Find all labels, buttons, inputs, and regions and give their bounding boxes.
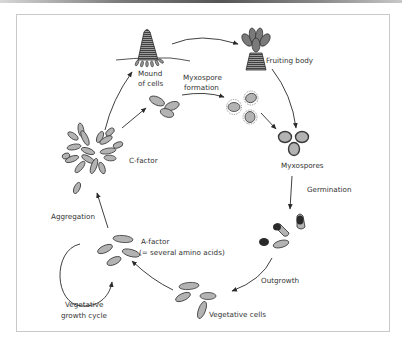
arrow-aggregate-to-mound	[105, 72, 132, 130]
label-vegetative-cycle-1: Vegetative	[65, 300, 104, 309]
arrow-fruiting-to-myxospores	[272, 69, 296, 128]
cell-pair-illustration	[148, 94, 180, 119]
label-c-factor: C-factor	[129, 156, 158, 165]
label-vegetative-cycle-2: growth cycle	[61, 311, 107, 320]
arrow-outgrowth-to-vegetative	[232, 258, 272, 291]
cycle-arrows	[60, 38, 296, 306]
label-aggregation: Aggregation	[51, 212, 95, 221]
labels: Mound of cells Fruiting body Myxospore f…	[51, 56, 352, 320]
arrow-aggregate-to-cells	[122, 108, 146, 128]
label-germination: Germination	[307, 185, 352, 194]
label-outgrowth: Outgrowth	[261, 276, 299, 285]
aggregation-cluster-illustration	[61, 123, 123, 195]
label-vegetative-cells: Vegetative cells	[209, 310, 266, 319]
label-myxospores: Myxospores	[281, 161, 324, 170]
label-a-factor-2: (= several amino acids)	[139, 248, 225, 257]
myxospores-illustration	[279, 132, 309, 156]
arrow-vegetative-to-afactor	[132, 261, 173, 290]
arrow-myxospore-formation	[182, 93, 224, 97]
arrow-spores-to-myxospores	[261, 113, 276, 129]
life-cycle-diagram: Mound of cells Fruiting body Myxospore f…	[0, 0, 402, 342]
arrow-myxospores-to-germination	[290, 176, 292, 209]
label-myxospore-formation-1: Myxospore	[183, 73, 222, 82]
label-a-factor-1: A-factor	[141, 237, 169, 246]
germinating-spores-illustration	[259, 214, 305, 249]
label-mound-2: of cells	[138, 79, 164, 88]
forming-myxospores-illustration	[227, 91, 259, 124]
label-fruiting-body: Fruiting body	[266, 56, 314, 65]
arrow-mound-to-fruiting	[172, 38, 238, 44]
label-myxospore-formation-2: formation	[184, 83, 219, 92]
mound-of-cells-illustration	[116, 30, 190, 68]
arrow-aggregation	[97, 193, 108, 228]
label-mound-1: Mound	[138, 69, 162, 78]
